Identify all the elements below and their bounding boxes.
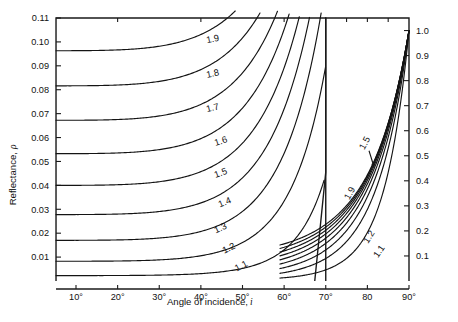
left-y-tick-label: 0.06 xyxy=(31,133,49,143)
left-panel-contour-curves xyxy=(56,11,326,276)
left-panel-contour-labels: 1.91.81.71.61.51.41.31.21.1 xyxy=(205,33,249,274)
x-axis-tick-label: 30° xyxy=(152,292,166,302)
contour-label-1.7: 1.7 xyxy=(205,101,220,114)
x-axis-title-symbol: i xyxy=(250,296,253,307)
right-contour-label-1.5: 1.5 xyxy=(357,135,372,151)
chart-canvas: 0.010.020.030.040.050.060.070.080.090.10… xyxy=(0,0,458,322)
right-contour-curve-n-1.1 xyxy=(280,31,409,279)
left-y-tick-label: 0.09 xyxy=(31,61,49,71)
right-y-tick-label: 0.9 xyxy=(416,51,429,61)
right-panel: 0.10.20.30.40.50.60.70.80.91.0 1.51.91.2… xyxy=(280,18,429,281)
right-y-tick-label: 0.1 xyxy=(416,251,429,261)
contour-label-1.3: 1.3 xyxy=(213,221,229,235)
contour-label-1.1: 1.1 xyxy=(233,258,249,273)
left-y-tick-label: 0.05 xyxy=(31,157,49,167)
contour-label-1.8: 1.8 xyxy=(205,67,220,79)
right-y-tick-label: 0.7 xyxy=(416,101,429,111)
x-axis-tick-label: 60° xyxy=(277,292,291,302)
x-axis-tick-label: 20° xyxy=(111,292,125,302)
reflectance-chart-figure: 0.010.020.030.040.050.060.070.080.090.10… xyxy=(0,0,458,322)
right-contour-curve-n-1.4 xyxy=(280,31,409,265)
right-contour-curve-n-1.2 xyxy=(280,31,409,274)
x-axis-tick-label: 90° xyxy=(402,292,416,302)
contour-label-1.5: 1.5 xyxy=(213,166,229,180)
y-axis-title-text: Reflectance, xyxy=(7,152,18,205)
right-y-tick-label: 0.4 xyxy=(416,176,429,186)
x-axis-title: Angle of incidence, i xyxy=(167,296,253,307)
contour-label-1.6: 1.6 xyxy=(213,134,228,148)
contour-curve-n-1.6 xyxy=(56,14,289,154)
contour-label-1.4: 1.4 xyxy=(217,195,233,209)
contour-label-1.2: 1.2 xyxy=(221,241,237,256)
left-y-tick-label: 0.10 xyxy=(31,37,49,47)
x-axis-tick-label: 10° xyxy=(69,292,83,302)
right-y-tick-label: 0.8 xyxy=(416,76,429,86)
left-y-tick-label: 0.07 xyxy=(31,109,49,119)
left-y-tick-label: 0.01 xyxy=(31,252,49,262)
left-y-tick-label: 0.02 xyxy=(31,228,49,238)
right-y-tick-label: 0.5 xyxy=(416,151,429,161)
right-y-tick-label: 0.3 xyxy=(416,201,429,211)
contour-curve-n-1.2 xyxy=(56,67,326,261)
right-contour-label-1.2: 1.2 xyxy=(361,229,376,245)
right-panel-annotations xyxy=(369,151,375,167)
contour-curve-n-1.8 xyxy=(56,13,260,86)
left-panel: 0.010.020.030.040.050.060.070.080.090.10… xyxy=(31,11,326,281)
right-y-tick-label: 0.2 xyxy=(416,226,429,236)
left-y-tick-label: 0.08 xyxy=(31,85,49,95)
x-axis-tick-label: 80 xyxy=(362,292,372,302)
left-y-tick-label: 0.11 xyxy=(32,13,49,23)
right-panel-contour-curves xyxy=(280,31,409,279)
left-y-tick-label: 0.04 xyxy=(31,181,49,191)
left-y-tick-label: 0.03 xyxy=(31,205,49,215)
y-axis-title: Reflectance, ρ xyxy=(7,144,18,205)
contour-label-1.9: 1.9 xyxy=(205,33,220,45)
right-contour-label-1.1: 1.1 xyxy=(371,243,387,259)
x-axis-title-text: Angle of incidence, xyxy=(167,296,248,307)
y-axis-title-symbol: ρ xyxy=(7,144,18,150)
contour-curve-n-1.7 xyxy=(56,11,277,120)
x-axis-tick-label: 70° xyxy=(319,292,333,302)
right-y-tick-label: 1.0 xyxy=(416,26,429,36)
right-y-tick-label: 0.6 xyxy=(416,126,429,136)
